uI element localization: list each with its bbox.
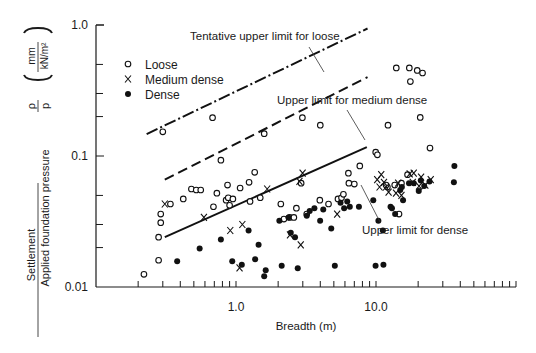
loose-point [317, 197, 323, 203]
loose-point [408, 79, 414, 85]
loose-point [214, 190, 220, 196]
limit-line-medium-dense [165, 77, 368, 180]
loose-point [227, 203, 233, 209]
dense-point [451, 163, 457, 169]
loose-point [317, 122, 323, 128]
y-tick-label: 0.1 [71, 149, 88, 163]
legend-medium-dense-label: Medium dense [145, 73, 224, 87]
legend-loose-label: Loose [145, 58, 178, 72]
x-axis-label: Breadth (m) [276, 320, 337, 332]
loose-point [158, 211, 164, 217]
loose-point [257, 195, 263, 201]
dense-point [389, 205, 395, 211]
dense-point [421, 183, 427, 189]
axes: 1.010.01.00.10.01 [65, 18, 516, 314]
loose-point [407, 65, 413, 71]
y-axis-label-denominator: Applied foundation pressure [39, 150, 51, 287]
y-tick-label: 0.01 [65, 280, 89, 294]
dense-point [328, 225, 334, 231]
medium-dense-point [334, 211, 340, 218]
legend: LooseMedium denseDense [125, 58, 224, 102]
loose-point [375, 152, 381, 158]
chart: 1.010.01.00.10.01 LooseMedium denseDense… [0, 0, 536, 353]
dense-point [338, 200, 344, 206]
y-axis-units-denominator: kN/m² [39, 42, 50, 69]
medium-dense-point [227, 227, 233, 234]
medium-dense-point [298, 241, 304, 248]
dense-point [174, 258, 180, 264]
medium-dense-point [378, 171, 384, 178]
loose-point [300, 115, 306, 121]
legend-dense-marker [125, 91, 131, 97]
annotation-dense-limit: Upper limit for dense [362, 224, 468, 236]
dense-point [416, 188, 422, 194]
dense-point [370, 197, 376, 203]
y-tick-label: 1.0 [71, 18, 88, 32]
legend-dense-label: Dense [145, 88, 180, 102]
legend-loose: Loose [125, 58, 178, 72]
dense-point [261, 273, 267, 279]
y-axis-units-bracket-bottom [24, 75, 52, 80]
dense-point [285, 214, 291, 220]
annotation-loose-limit: Tentative upper limit for loose [190, 30, 340, 42]
loose-point [158, 220, 164, 226]
dense-point [229, 258, 235, 264]
loose-point [357, 163, 363, 169]
loose-point [156, 257, 162, 263]
annotation-medium-limit: Upper limit for medium dense [277, 94, 427, 106]
loose-point [160, 129, 166, 135]
y-axis-symbol-p: p [39, 103, 51, 109]
loose-point [168, 201, 174, 207]
dense-point [344, 198, 350, 204]
dense-point [197, 245, 203, 251]
dense-point [218, 237, 224, 243]
annotation-leader-loose [309, 47, 324, 72]
dense-point [400, 197, 406, 203]
y-axis-label-numerator: Settlement [25, 229, 37, 282]
dense-point [252, 256, 258, 262]
loose-point [237, 185, 243, 191]
loose-point [211, 204, 217, 210]
loose-point [346, 170, 352, 176]
loose-point [291, 215, 297, 221]
dense-point [288, 230, 294, 236]
loose-point [261, 131, 267, 137]
dense-point [356, 204, 362, 210]
loose-point [326, 201, 332, 207]
loose-point [417, 115, 423, 121]
loose-point [156, 234, 162, 240]
loose-point [346, 180, 352, 186]
x-tick-label: 1.0 [228, 300, 245, 314]
medium-dense-point [162, 201, 168, 208]
x-tick-label: 10.0 [364, 300, 388, 314]
dense-point [392, 211, 398, 217]
dense-point [347, 204, 353, 210]
loose-point [141, 272, 147, 278]
loose-point [393, 65, 399, 71]
legend-medium-dense-marker [125, 76, 131, 83]
annotation-leader-medium [347, 110, 365, 140]
loose-point [385, 122, 391, 128]
loose-point [218, 157, 224, 163]
loose-point [414, 68, 420, 74]
dense-point [426, 178, 432, 184]
dense-point [311, 205, 317, 211]
dense-point [411, 180, 417, 186]
dense-point [276, 218, 282, 224]
loose-point [352, 181, 358, 187]
dense-point [239, 262, 245, 268]
dense-point [380, 262, 386, 268]
dense-point [341, 205, 347, 211]
dense-point [292, 234, 298, 240]
loose-point [230, 196, 236, 202]
dense-point [256, 242, 262, 248]
loose-point [341, 192, 347, 198]
y-axis-label: Settlement Applied foundation pressure ρ… [24, 28, 52, 337]
loose-point [180, 196, 186, 202]
legend-medium-dense: Medium dense [125, 73, 224, 87]
loose-point [278, 201, 284, 207]
dense-point [451, 179, 457, 185]
dense-point [332, 263, 338, 269]
loose-point [225, 182, 231, 188]
dense-point [373, 263, 379, 269]
